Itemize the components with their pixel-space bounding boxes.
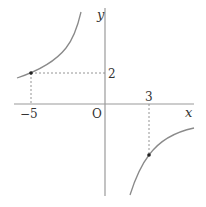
origin-label: O	[92, 107, 102, 121]
curve-left-branch	[17, 12, 81, 78]
tick-label-2: 2	[108, 67, 116, 81]
curve-right-branch	[130, 128, 194, 195]
point-x-3	[147, 153, 151, 157]
y-axis-label: y	[96, 7, 105, 22]
x-axis-label: x	[185, 105, 193, 120]
tick-label-neg5: −5	[20, 107, 38, 121]
tick-label-3: 3	[145, 90, 153, 104]
function-graph: y x O −5 3 2	[0, 0, 206, 207]
point-neg5-2	[29, 71, 33, 75]
